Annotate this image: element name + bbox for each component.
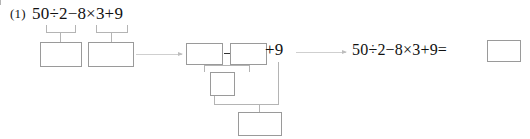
problem-number: (1)	[10, 6, 26, 22]
grouping-bracket-multiplication	[96, 25, 128, 33]
grouping-bracket-division	[46, 25, 76, 33]
connector-stem-step3	[0, 0, 1, 5]
answer-box-step2-right[interactable]	[230, 43, 267, 65]
math-worksheet-problem: (1) 50÷2−8×3+9 +9 50÷2−8×3+9=	[0, 0, 530, 139]
plus-nine-label: +9	[265, 40, 284, 60]
problem-expression: 50÷2−8×3+9	[32, 4, 123, 24]
answer-box-step1-right[interactable]	[88, 42, 134, 67]
final-expression: 50÷2−8×3+9=	[352, 41, 447, 59]
connector-stem-from-plus-nine	[278, 62, 279, 105]
answer-box-step1-left[interactable]	[40, 42, 82, 67]
flow-arrow-first	[136, 54, 182, 55]
bracket-stem-multiplication	[111, 33, 112, 42]
connector-merge-step4	[214, 104, 278, 105]
answer-box-step2-left[interactable]	[186, 43, 223, 65]
connector-merge-step2	[204, 65, 250, 72]
answer-box-step3-middle[interactable]	[210, 72, 235, 96]
bracket-stem-division	[60, 33, 61, 42]
answer-box-step4-bottom[interactable]	[238, 112, 282, 136]
answer-box-final[interactable]	[487, 40, 521, 62]
flow-arrow-second	[296, 52, 346, 53]
